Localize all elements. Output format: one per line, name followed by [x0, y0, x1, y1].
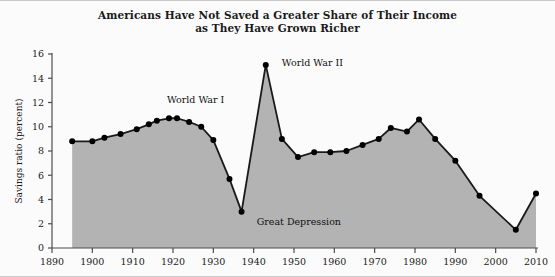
data-point — [118, 131, 124, 137]
data-point — [198, 124, 204, 130]
data-point — [186, 119, 192, 125]
y-axis-tick-label: 16 — [32, 48, 44, 59]
x-axis-tick-label: 1900 — [80, 256, 104, 267]
data-point — [154, 118, 160, 124]
x-axis-tick-label: 1930 — [201, 256, 225, 267]
x-axis-tick-label: 1910 — [121, 256, 145, 267]
y-axis-tick-label: 8 — [38, 145, 44, 156]
data-point — [327, 149, 333, 155]
chart-plot-area: 0246810121416189019001910192019301940195… — [0, 1, 555, 277]
x-axis-tick-label: 1940 — [242, 256, 266, 267]
data-point — [166, 115, 172, 121]
data-point — [533, 190, 539, 196]
data-point — [263, 62, 269, 68]
x-axis-tick-label: 1950 — [282, 256, 306, 267]
data-point — [69, 138, 75, 144]
data-point — [388, 125, 394, 131]
x-axis-tick-label: 1890 — [40, 256, 64, 267]
y-axis-tick-label: 2 — [38, 218, 44, 229]
data-point — [404, 129, 410, 135]
data-point — [432, 136, 438, 142]
data-point — [89, 138, 95, 144]
data-point — [146, 121, 152, 127]
data-point — [174, 115, 180, 121]
annotation-label: World War II — [282, 57, 343, 68]
data-point — [452, 158, 458, 164]
x-axis-tick-label: 2010 — [524, 256, 548, 267]
y-axis-tick-label: 4 — [38, 194, 44, 205]
data-point — [311, 149, 317, 155]
x-axis-tick-label: 1990 — [443, 256, 467, 267]
data-point — [134, 126, 140, 132]
data-point — [210, 137, 216, 143]
data-point — [416, 116, 422, 122]
x-axis-tick-label: 1970 — [363, 256, 387, 267]
y-axis-tick-label: 10 — [32, 121, 44, 132]
x-axis-tick-label: 2000 — [484, 256, 508, 267]
data-point — [226, 176, 232, 182]
x-axis-tick-label: 1960 — [322, 256, 346, 267]
y-axis-tick-label: 0 — [38, 242, 44, 253]
data-point — [279, 136, 285, 142]
y-axis-tick-label: 6 — [38, 170, 44, 181]
y-axis-tick-label: 14 — [32, 73, 44, 84]
data-point — [360, 142, 366, 148]
data-point — [295, 154, 301, 160]
data-point — [343, 148, 349, 154]
chart-figure: Americans Have Not Saved a Greater Share… — [0, 0, 555, 277]
y-axis-label: Savings ratio (percent) — [14, 98, 24, 203]
x-axis-tick-label: 1920 — [161, 256, 185, 267]
data-point — [513, 227, 519, 233]
annotation-label: Great Depression — [257, 216, 341, 227]
data-point — [239, 209, 245, 215]
x-axis-tick-label: 1980 — [403, 256, 427, 267]
y-axis-tick-label: 12 — [32, 97, 44, 108]
data-point — [101, 135, 107, 141]
data-point — [376, 136, 382, 142]
data-point — [477, 193, 483, 199]
annotation-label: World War I — [167, 94, 225, 105]
